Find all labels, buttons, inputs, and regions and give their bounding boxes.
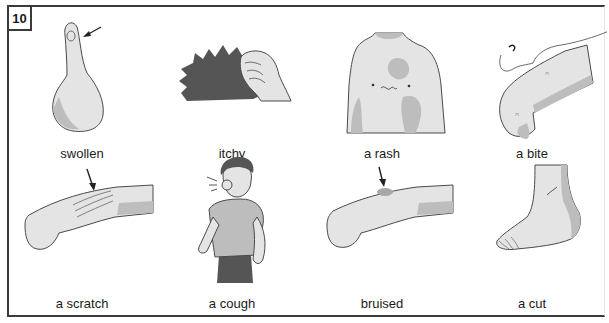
item-itchy: itchy xyxy=(157,5,307,155)
scratch-arm-icon xyxy=(7,155,157,295)
svg-text:∩: ∩ xyxy=(515,111,519,117)
item-label: a cut xyxy=(457,296,607,311)
item-bruised: bruised xyxy=(307,155,457,305)
rash-chest-icon xyxy=(307,5,457,145)
item-swollen: swollen xyxy=(7,5,157,155)
coughing-man-icon xyxy=(157,155,307,295)
svg-text:∩: ∩ xyxy=(545,70,549,76)
item-label: a scratch xyxy=(7,296,157,311)
item-cut: a cut xyxy=(457,155,607,305)
item-label: a cough xyxy=(157,296,307,311)
bite-knee-insect-icon: ∩ ∩ xyxy=(457,5,607,145)
item-label: bruised xyxy=(307,296,457,311)
item-cough: a cough xyxy=(157,155,307,305)
cut-foot-icon xyxy=(457,155,607,295)
item-scratch: a scratch xyxy=(7,155,157,305)
item-bite: ∩ ∩ a bite xyxy=(457,5,607,155)
item-rash: a rash xyxy=(307,5,457,155)
itchy-scratching-hand-icon xyxy=(157,5,307,145)
swollen-thumb-icon xyxy=(7,5,157,145)
bruised-arm-icon xyxy=(307,155,457,295)
